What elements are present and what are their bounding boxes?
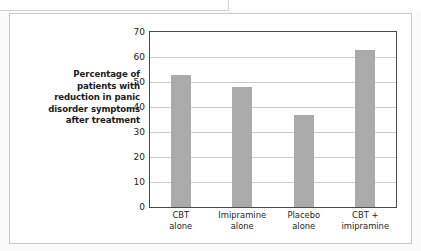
bar: [294, 115, 314, 208]
y-axis-tick-label: 0: [117, 203, 145, 212]
bar: [355, 50, 375, 208]
bar-series: [150, 32, 396, 207]
y-axis-tick-label: 30: [117, 128, 145, 137]
figure-card: Percentage of patients with reduction in…: [9, 13, 412, 244]
bar: [171, 75, 191, 208]
y-axis-tick-label: 50: [117, 78, 145, 87]
bar: [232, 87, 252, 207]
bar-chart: Percentage of patients with reduction in…: [10, 14, 413, 245]
x-axis-tick-label-line: CBT +: [327, 210, 405, 221]
y-axis-tick-label: 60: [117, 53, 145, 62]
x-axis-tick-label-line: imipramine: [327, 221, 405, 232]
y-axis-tick-label: 10: [117, 178, 145, 187]
y-axis-tick-label: 20: [117, 153, 145, 162]
scan-page-fragment: [0, 0, 229, 11]
x-axis-tick-labels: CBTaloneImipraminealonePlaceboaloneCBT +…: [150, 210, 396, 242]
y-axis-tick-label: 40: [117, 103, 145, 112]
x-axis-tick-label: CBT +imipramine: [327, 210, 405, 231]
y-axis-tick-labels: 010203040506070: [117, 31, 145, 208]
y-axis-tick-label: 70: [117, 28, 145, 37]
